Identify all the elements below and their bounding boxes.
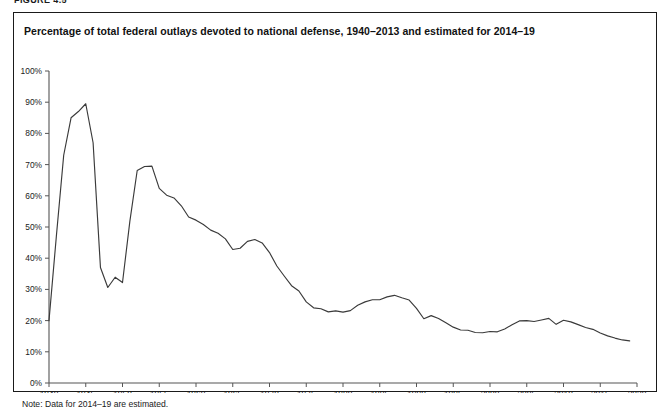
figure-note: Note: Data for 2014–19 are estimated. bbox=[22, 399, 168, 409]
x-axis-tick-label: 1960 bbox=[187, 389, 206, 393]
x-axis-tick-label: 1950 bbox=[113, 389, 132, 393]
figure-box: Percentage of total federal outlays devo… bbox=[13, 12, 657, 392]
x-axis-tick-label: 2010 bbox=[554, 389, 573, 393]
y-axis-tick-label: 80% bbox=[25, 128, 42, 138]
x-axis-tick-label: 1990 bbox=[407, 389, 426, 393]
y-axis-tick-label: 100% bbox=[21, 66, 43, 76]
y-axis-tick-label: 40% bbox=[25, 253, 42, 263]
y-axis-tick-label: 50% bbox=[25, 222, 42, 232]
x-axis-tick-label: 2020 bbox=[628, 389, 647, 393]
x-axis-tick-label: 2005 bbox=[517, 389, 536, 393]
y-axis-tick-label: 0% bbox=[30, 378, 43, 388]
x-axis-tick-label: 2000 bbox=[481, 389, 500, 393]
figure-root: FIGURE 4.5 Percentage of total federal o… bbox=[0, 0, 669, 420]
x-axis-tick-label: 1975 bbox=[297, 389, 316, 393]
x-axis-tick-label: 1985 bbox=[370, 389, 389, 393]
x-axis-tick-label: 1945 bbox=[76, 389, 95, 393]
x-axis-tick-label: 2015 bbox=[591, 389, 610, 393]
y-axis-tick-label: 70% bbox=[25, 160, 42, 170]
x-axis-tick-label: 1955 bbox=[150, 389, 169, 393]
y-axis-tick-label: 60% bbox=[25, 191, 42, 201]
chart-plot-area: 0%10%20%30%40%50%60%70%80%90%100%1940194… bbox=[14, 13, 658, 393]
y-axis-tick-label: 20% bbox=[25, 316, 42, 326]
y-axis-tick-label: 10% bbox=[25, 347, 42, 357]
data-series-line bbox=[49, 104, 630, 341]
y-axis-tick-label: 30% bbox=[25, 284, 42, 294]
y-axis-tick-label: 90% bbox=[25, 97, 42, 107]
line-chart: 0%10%20%30%40%50%60%70%80%90%100%1940194… bbox=[14, 13, 658, 393]
x-axis-tick-label: 1940 bbox=[40, 389, 59, 393]
x-axis-tick-label: 1980 bbox=[334, 389, 353, 393]
figure-number-label: FIGURE 4.5 bbox=[14, 0, 67, 6]
x-axis-tick-label: 1965 bbox=[223, 389, 242, 393]
x-axis-tick-label: 1970 bbox=[260, 389, 279, 393]
x-axis-tick-label: 1995 bbox=[444, 389, 463, 393]
